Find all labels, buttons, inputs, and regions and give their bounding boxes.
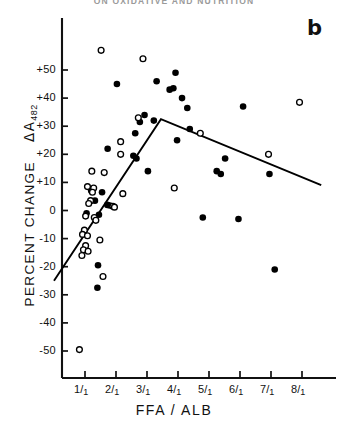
data-point-filled [104, 145, 111, 152]
data-point-open [118, 151, 124, 157]
data-point-open [85, 233, 91, 239]
data-point-filled [145, 168, 152, 175]
data-points [77, 47, 303, 352]
x-tick-denominator: 1 [207, 387, 212, 397]
data-point-open [112, 204, 118, 210]
data-point-open [90, 189, 96, 195]
data-point-filled [153, 78, 160, 85]
y-tick-label: +50 [22, 64, 56, 75]
y-tick-label: -30 [22, 289, 56, 300]
data-point-filled [174, 137, 181, 144]
data-point-filled [217, 171, 224, 178]
data-point-open [140, 56, 146, 62]
x-tick-label: 6/1 [229, 384, 243, 398]
data-point-open [171, 185, 177, 191]
axes [62, 18, 336, 378]
data-point-filled [133, 155, 140, 162]
data-point-open [86, 201, 92, 207]
data-point-filled [184, 105, 191, 112]
data-point-open [197, 130, 203, 136]
figure-panel-b: ON OXIDATIVE AND NUTRITION b PERCENT CHA… [0, 0, 348, 430]
data-point-filled [114, 81, 121, 88]
data-point-open [97, 237, 103, 243]
data-point-filled [240, 103, 247, 110]
data-point-open [77, 347, 83, 353]
y-tick-label: -20 [22, 261, 56, 272]
data-point-open [98, 47, 104, 53]
x-tick-denominator: 1 [145, 387, 150, 397]
x-tick-label: 1/1 [74, 384, 88, 398]
data-point-filled [99, 189, 106, 196]
data-point-filled [186, 126, 193, 133]
x-tick-denominator: 1 [238, 387, 243, 397]
y-tick-label: -50 [22, 345, 56, 356]
x-tick-denominator: 1 [114, 387, 119, 397]
data-point-open [83, 213, 89, 219]
x-tick-label: 8/1 [291, 384, 305, 398]
data-point-open [100, 274, 106, 280]
data-point-filled [235, 216, 242, 223]
data-point-open [89, 168, 95, 174]
x-tick-denominator: 1 [300, 387, 305, 397]
data-point-open [85, 248, 91, 254]
data-point-filled [271, 266, 278, 273]
y-tick-label: 0 [22, 205, 56, 216]
x-axis-title: FFA / ALB [0, 402, 348, 418]
y-tick-label: +10 [22, 176, 56, 187]
data-point-open [118, 139, 124, 145]
data-point-filled [151, 117, 158, 124]
x-tick-denominator: 1 [176, 387, 181, 397]
data-point-filled [172, 70, 179, 77]
data-point-filled [141, 112, 148, 119]
running-head: ON OXIDATIVE AND NUTRITION [0, 0, 348, 4]
data-point-filled [132, 130, 139, 137]
data-point-filled [179, 95, 186, 102]
data-point-filled [200, 214, 207, 221]
x-tick-label: 3/1 [136, 384, 150, 398]
x-tick-label: 2/1 [105, 384, 119, 398]
data-point-filled [170, 85, 177, 92]
data-point-open [93, 217, 99, 223]
data-point-open [266, 151, 272, 157]
y-tick-label: -10 [22, 233, 56, 244]
data-point-open [79, 253, 85, 259]
data-point-open [135, 115, 141, 121]
x-tick-label: 5/1 [198, 384, 212, 398]
data-point-open [85, 184, 91, 190]
y-tick-label: +30 [22, 120, 56, 131]
y-tick-label: -40 [22, 317, 56, 328]
data-point-open [297, 99, 303, 105]
data-point-filled [222, 155, 229, 162]
x-tick-label: 4/1 [167, 384, 181, 398]
data-point-open [101, 170, 107, 176]
panel-label-b: b [307, 16, 322, 40]
data-point-filled [266, 171, 273, 178]
y-tick-label: +20 [22, 148, 56, 159]
data-point-filled [95, 262, 102, 269]
x-tick-label: 7/1 [260, 384, 274, 398]
data-point-filled [94, 284, 101, 291]
y-tick-label: +40 [22, 92, 56, 103]
x-tick-denominator: 1 [269, 387, 274, 397]
x-tick-denominator: 1 [83, 387, 88, 397]
data-point-open [120, 191, 126, 197]
